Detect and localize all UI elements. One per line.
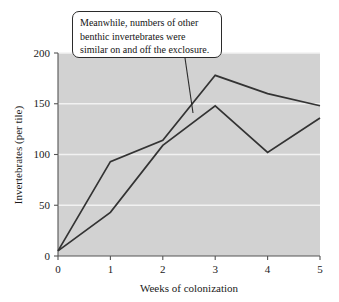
x-axis-tick-label: 1 — [108, 263, 114, 275]
x-axis-tick-label: 3 — [212, 263, 218, 275]
y-axis-tick-label: 0 — [45, 250, 51, 262]
callout-line-1: Meanwhile, numbers of other — [80, 16, 214, 30]
callout-line-2: benthic invertebrates were — [80, 30, 214, 44]
x-axis-tick-label: 2 — [160, 263, 166, 275]
y-axis-tick-label: 50 — [39, 199, 51, 211]
x-axis-tick-label: 5 — [317, 263, 323, 275]
callout-annotation: Meanwhile, numbers of other benthic inve… — [72, 11, 222, 58]
chart-figure: 050100150200 012345 Weeks of colonizatio… — [0, 0, 339, 302]
y-axis-tick-label: 200 — [34, 47, 51, 59]
x-axis-ticks — [58, 256, 320, 260]
y-axis-tick-labels: 050100150200 — [34, 47, 51, 262]
y-axis-ticks — [54, 53, 58, 256]
x-axis-title: Weeks of colonization — [140, 282, 239, 294]
callout-line-3: similar on and off the exclosure. — [80, 43, 214, 57]
y-axis-tick-label: 100 — [34, 148, 51, 160]
x-axis-tick-labels: 012345 — [55, 263, 323, 275]
y-axis-tick-label: 150 — [34, 97, 51, 109]
x-axis-tick-label: 0 — [55, 263, 61, 275]
x-axis-tick-label: 4 — [265, 263, 271, 275]
y-axis-title: Invertebrates (per tile) — [12, 106, 25, 205]
